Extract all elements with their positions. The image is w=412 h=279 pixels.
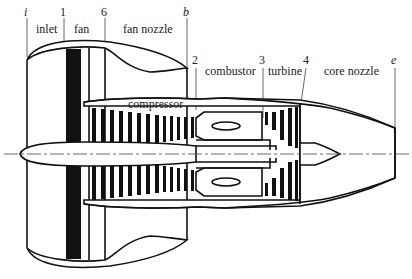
station-b: b [183, 5, 189, 19]
label-fan: fan [74, 22, 89, 36]
turbofan-diagram: i 1 6 b 2 3 4 e inlet fan fan nozzle com… [0, 0, 412, 279]
station-e: e [391, 53, 397, 67]
label-compressor: compressor [128, 97, 183, 111]
label-fan-nozzle: fan nozzle [123, 22, 173, 36]
label-combustor: combustor [205, 64, 256, 78]
station-2: 2 [192, 53, 198, 67]
station-3: 3 [259, 53, 265, 67]
component-labels: inlet fan fan nozzle combustor turbine c… [36, 22, 379, 78]
station-1: 1 [60, 5, 66, 19]
label-turbine: turbine [268, 64, 302, 78]
station-4: 4 [303, 53, 309, 67]
station-i: i [24, 5, 27, 19]
station-6: 6 [101, 5, 107, 19]
label-inlet: inlet [36, 22, 58, 36]
label-core-nozzle: core nozzle [324, 64, 379, 78]
